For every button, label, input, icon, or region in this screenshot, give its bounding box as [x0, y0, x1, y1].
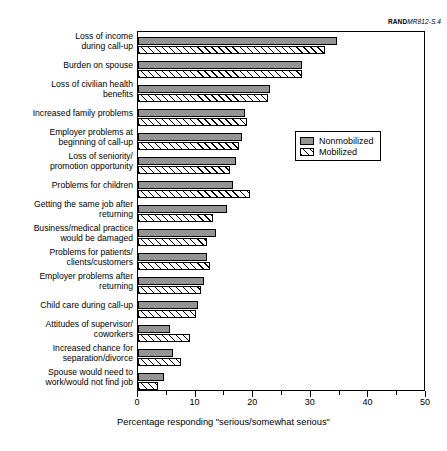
- x-tick-minor-15: [223, 391, 224, 395]
- y-axis-label-8: Business/medical practicewould be damage…: [0, 224, 133, 244]
- bar-nonmobilized-11: [138, 301, 198, 309]
- x-tick-minor-25: [281, 391, 282, 395]
- y-axis-label-0: Loss of incomeduring call-up: [0, 32, 133, 52]
- bar-nonmobilized-3: [138, 109, 245, 117]
- bar-mobilized-9: [138, 262, 210, 270]
- bar-mobilized-14: [138, 382, 158, 390]
- x-tick-label-20: 20: [237, 397, 267, 407]
- legend-entry-1: Mobilized: [300, 146, 374, 157]
- plot-area: [137, 31, 425, 391]
- y-axis-labels: Loss of incomeduring call-upBurden on sp…: [0, 31, 133, 391]
- y-axis-label-11: Child care during call-up: [0, 301, 133, 311]
- bar-nonmobilized-8: [138, 229, 216, 237]
- x-axis-title: Percentage responding "serious/somewhat …: [0, 417, 447, 427]
- legend-swatch-solid-gray: [300, 137, 314, 145]
- x-tick-minor-45: [396, 391, 397, 395]
- bar-mobilized-1: [138, 70, 302, 78]
- y-axis-label-7: Getting the same job afterreturning: [0, 200, 133, 220]
- bar-nonmobilized-13: [138, 349, 173, 357]
- legend-label-0: Nonmobilized: [319, 136, 374, 146]
- y-axis-label-9: Problems for patients/clients/customers: [0, 248, 133, 268]
- bar-mobilized-5: [138, 166, 230, 174]
- bar-nonmobilized-10: [138, 277, 204, 285]
- bar-nonmobilized-0: [138, 37, 337, 45]
- bar-nonmobilized-14: [138, 373, 164, 381]
- x-tick-minor-5: [166, 391, 167, 395]
- y-axis-label-14: Spouse would need towork/would not find …: [0, 368, 133, 388]
- y-axis-label-4: Employer problems atbeginning of call-up: [0, 128, 133, 148]
- legend: NonmobilizedMobilized: [295, 131, 381, 161]
- bar-nonmobilized-4: [138, 133, 242, 141]
- bar-mobilized-7: [138, 214, 213, 222]
- y-axis-label-12: Attitudes of supervisor/coworkers: [0, 320, 133, 340]
- bar-mobilized-2: [138, 94, 268, 102]
- bar-nonmobilized-5: [138, 157, 236, 165]
- y-axis-label-3: Increased family problems: [0, 109, 133, 119]
- x-axis-tick-labels: 01020304050: [0, 397, 447, 409]
- x-tick-label-30: 30: [295, 397, 325, 407]
- bar-mobilized-8: [138, 238, 207, 246]
- bar-nonmobilized-12: [138, 325, 170, 333]
- bar-mobilized-3: [138, 118, 247, 126]
- y-axis-label-13: Increased chance forseparation/divorce: [0, 344, 133, 364]
- bar-mobilized-11: [138, 310, 196, 318]
- bar-mobilized-0: [138, 46, 325, 54]
- y-axis-label-10: Employer problems afterreturning: [0, 272, 133, 292]
- x-tick-label-0: 0: [122, 397, 152, 407]
- bar-mobilized-6: [138, 190, 250, 198]
- bar-mobilized-10: [138, 286, 201, 294]
- bar-mobilized-12: [138, 334, 190, 342]
- bar-nonmobilized-7: [138, 205, 227, 213]
- figure-id-suffix: MR812-S.4: [407, 18, 441, 25]
- bar-nonmobilized-1: [138, 61, 302, 69]
- x-tick-label-10: 10: [180, 397, 210, 407]
- bar-mobilized-4: [138, 142, 239, 150]
- legend-swatch-diagonal-hatch: [300, 148, 314, 156]
- bar-mobilized-13: [138, 358, 181, 366]
- bar-nonmobilized-2: [138, 85, 270, 93]
- y-axis-label-5: Loss of seniority/promotion opportunity: [0, 152, 133, 172]
- legend-entry-0: Nonmobilized: [300, 135, 374, 146]
- figure-id-prefix: RAND: [388, 18, 407, 25]
- x-tick-label-40: 40: [352, 397, 382, 407]
- y-axis-label-1: Burden on spouse: [0, 61, 133, 71]
- legend-label-1: Mobilized: [319, 147, 357, 157]
- bar-nonmobilized-6: [138, 181, 233, 189]
- bar-nonmobilized-9: [138, 253, 207, 261]
- figure-id: RANDMR812-S.4: [388, 18, 441, 25]
- y-axis-label-2: Loss of civilian healthbenefits: [0, 80, 133, 100]
- x-tick-minor-35: [339, 391, 340, 395]
- x-tick-label-50: 50: [410, 397, 440, 407]
- y-axis-label-6: Problems for children: [0, 181, 133, 191]
